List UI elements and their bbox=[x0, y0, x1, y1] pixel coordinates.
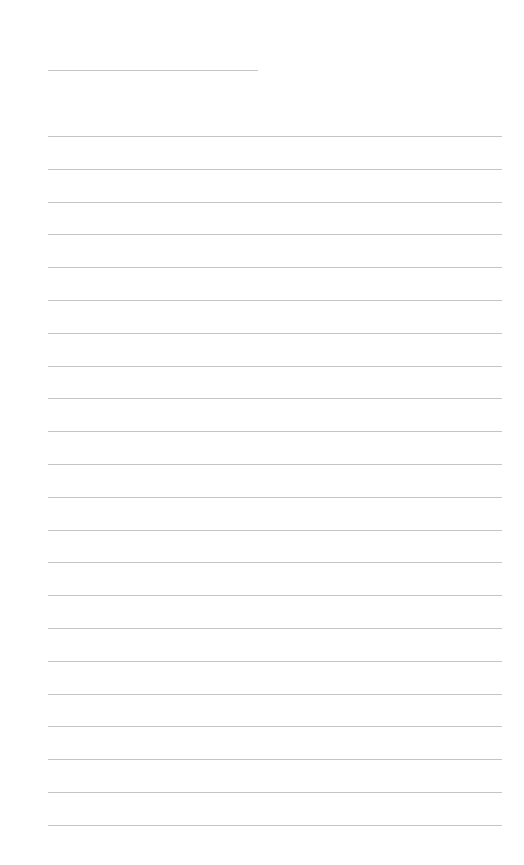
ruled-line[interactable] bbox=[48, 661, 502, 694]
ruled-line[interactable] bbox=[48, 431, 502, 464]
ruled-line[interactable] bbox=[48, 595, 502, 628]
ruled-line[interactable] bbox=[48, 398, 502, 431]
ruled-line[interactable] bbox=[48, 366, 502, 399]
ruled-line[interactable] bbox=[48, 759, 502, 792]
ruled-line[interactable] bbox=[48, 333, 502, 366]
ruled-line[interactable] bbox=[48, 530, 502, 563]
ruled-line[interactable] bbox=[48, 792, 502, 825]
ruled-line[interactable] bbox=[48, 562, 502, 595]
ruled-line[interactable] bbox=[48, 267, 502, 300]
ruled-line[interactable] bbox=[48, 497, 502, 530]
ruled-line[interactable] bbox=[48, 694, 502, 727]
ruled-line[interactable] bbox=[48, 628, 502, 661]
ruled-line[interactable] bbox=[48, 202, 502, 235]
header-field[interactable] bbox=[48, 50, 258, 68]
ruled-line[interactable] bbox=[48, 300, 502, 333]
header-underline bbox=[48, 70, 258, 71]
ruled-line[interactable] bbox=[48, 234, 502, 267]
ruled-lines bbox=[48, 136, 502, 858]
ruled-line[interactable] bbox=[48, 136, 502, 169]
ruled-line[interactable] bbox=[48, 825, 502, 858]
ruled-line[interactable] bbox=[48, 726, 502, 759]
ruled-line[interactable] bbox=[48, 464, 502, 497]
lined-page bbox=[0, 0, 524, 865]
ruled-line[interactable] bbox=[48, 169, 502, 202]
